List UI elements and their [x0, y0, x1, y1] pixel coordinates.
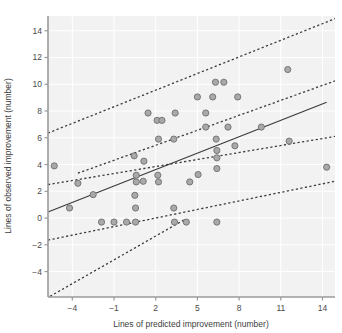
data-point — [75, 180, 81, 186]
y-tick-label: −4 — [32, 267, 42, 277]
data-point — [155, 136, 161, 142]
y-tick-label: 8 — [37, 106, 42, 116]
data-point — [140, 178, 146, 184]
plot-area-background — [48, 16, 335, 297]
data-point — [214, 147, 220, 153]
data-point — [214, 219, 220, 225]
data-point — [98, 219, 104, 225]
data-point — [159, 117, 165, 123]
y-tick-label: 10 — [33, 79, 43, 89]
data-point — [155, 172, 161, 178]
data-point — [111, 219, 117, 225]
figure-container: −4−12581114 −4−202468101214 Lines of pre… — [0, 0, 342, 333]
data-point — [210, 94, 216, 100]
data-point — [203, 124, 209, 130]
data-point — [155, 179, 161, 185]
data-point — [235, 94, 241, 100]
y-tick-label: 6 — [37, 133, 42, 143]
x-tick-label: −1 — [109, 303, 119, 313]
data-point — [172, 110, 178, 116]
data-point — [141, 158, 147, 164]
data-point — [145, 110, 151, 116]
data-point — [131, 153, 137, 159]
x-tick-label: 14 — [318, 303, 328, 313]
data-point — [213, 136, 219, 142]
data-point — [232, 143, 238, 149]
data-point — [203, 110, 209, 116]
y-tick-label: 0 — [37, 213, 42, 223]
data-point — [123, 219, 129, 225]
data-point — [171, 219, 177, 225]
data-point — [285, 66, 291, 72]
data-point — [51, 163, 57, 169]
x-tick-label: 2 — [153, 303, 158, 313]
data-point — [286, 138, 292, 144]
data-point — [183, 219, 189, 225]
y-tick-label: 12 — [33, 52, 43, 62]
data-point — [66, 205, 72, 211]
data-point — [214, 165, 220, 171]
data-point — [132, 192, 138, 198]
scatter-plot: −4−12581114 −4−202468101214 Lines of pre… — [0, 0, 342, 333]
data-point — [195, 171, 201, 177]
data-point — [212, 79, 218, 85]
x-tick-label: −4 — [67, 303, 77, 313]
y-tick-label: 2 — [37, 186, 42, 196]
data-point — [258, 124, 264, 130]
y-tick-label: 4 — [37, 160, 42, 170]
y-tick-label: 14 — [33, 26, 43, 36]
data-point — [133, 179, 139, 185]
data-point — [214, 155, 220, 161]
y-axis-label: Lines of observed improvement (number) — [3, 78, 13, 234]
data-point — [132, 205, 138, 211]
data-point — [171, 136, 177, 142]
x-tick-label: 11 — [276, 303, 285, 313]
data-point — [221, 79, 227, 85]
data-point — [225, 124, 231, 130]
data-point — [194, 94, 200, 100]
data-point — [90, 192, 96, 198]
x-tick-label: 8 — [237, 303, 242, 313]
data-point — [187, 179, 193, 185]
data-point — [171, 205, 177, 211]
data-point — [133, 172, 139, 178]
x-axis-label: Lines of predicted improvement (number) — [113, 319, 269, 329]
y-tick-label: −2 — [32, 240, 42, 250]
data-point — [324, 164, 330, 170]
x-tick-label: 5 — [195, 303, 200, 313]
data-point — [132, 219, 138, 225]
